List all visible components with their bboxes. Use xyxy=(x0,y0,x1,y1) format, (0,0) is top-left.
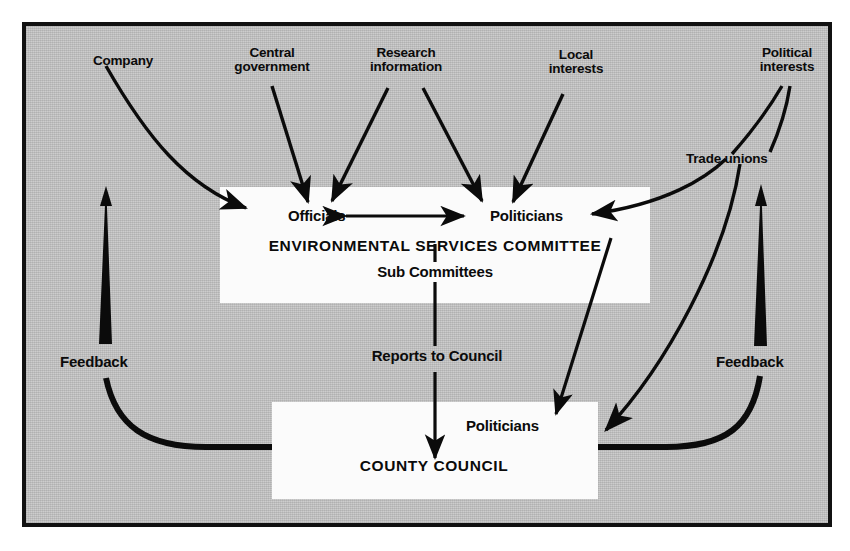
node-label-trade-unions: Trade unions xyxy=(686,152,816,166)
node-label-local-interests: Local interests xyxy=(526,48,626,76)
committee-title: ENVIRONMENTAL SERVICES COMMITTEE xyxy=(230,238,640,254)
edge-company-to-officials xyxy=(106,66,246,208)
edge-feedback-right-arrowhead xyxy=(755,184,767,206)
edge-feedback-left-shaft xyxy=(99,194,112,344)
edge-political-interests-right xyxy=(770,86,790,152)
edge-feedback-right-shaft xyxy=(754,194,767,346)
edge-local-interests-to-politicians xyxy=(513,94,563,202)
node-label-research-information: Research information xyxy=(346,46,466,74)
node-label-politicians-committee: Politicians xyxy=(490,208,600,224)
edge-feedback-left-curve xyxy=(106,378,272,447)
reports-to-council-label: Reports to Council xyxy=(352,348,522,364)
edge-trade-unions-to-politicians xyxy=(592,159,726,214)
council-title: COUNTY COUNCIL xyxy=(294,458,574,474)
feedback-left-label: Feedback xyxy=(60,354,170,370)
node-label-political-interests: Political interests xyxy=(732,46,842,74)
feedback-right-label: Feedback xyxy=(716,354,826,370)
edge-research-to-politicians xyxy=(423,88,482,201)
diagram-frame: Company Central government Research info… xyxy=(22,22,832,527)
edge-feedback-left-arrowhead xyxy=(100,186,112,206)
edge-research-to-officials xyxy=(332,88,388,201)
diagram-page: Company Central government Research info… xyxy=(0,0,850,551)
node-label-officials: Officials xyxy=(288,208,378,224)
node-label-politicians-council: Politicians xyxy=(466,418,576,434)
sub-committees-label: Sub Committees xyxy=(360,264,510,280)
edge-central-government-to-officials xyxy=(272,86,308,202)
edge-trade-unions-to-council-politicians xyxy=(606,164,740,430)
edge-committee-to-council-politicians xyxy=(556,238,611,414)
node-label-company: Company xyxy=(68,54,178,68)
node-label-central-government: Central government xyxy=(212,46,332,74)
